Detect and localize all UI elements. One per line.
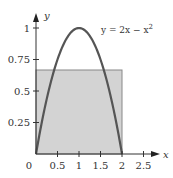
y-tick-label: 0.75 (8, 54, 30, 65)
y-tick-label: 1 (24, 23, 30, 34)
x-tick-label: 0.5 (50, 160, 66, 171)
x-tick-label: 2 (119, 160, 125, 171)
x-tick-label: 1 (76, 160, 82, 171)
y-tick-label: 0.25 (8, 117, 30, 128)
x-axis-arrow-icon (151, 151, 160, 157)
y-tick-label: 0.5 (14, 86, 30, 97)
y-axis-label: y (43, 10, 50, 21)
average-value-rect (36, 70, 122, 154)
y-axis-arrow-icon (33, 13, 39, 22)
equation-label: y = 2x − x2 (100, 23, 153, 35)
chart: 0 0.5 1 1.5 2 2.5 0.25 0.5 0.75 1 x y y … (0, 0, 173, 178)
x-tick-label: 0 (26, 160, 32, 171)
x-tick-label: 1.5 (93, 160, 109, 171)
x-tick-label: 2.5 (136, 160, 152, 171)
x-axis-label: x (163, 149, 169, 160)
